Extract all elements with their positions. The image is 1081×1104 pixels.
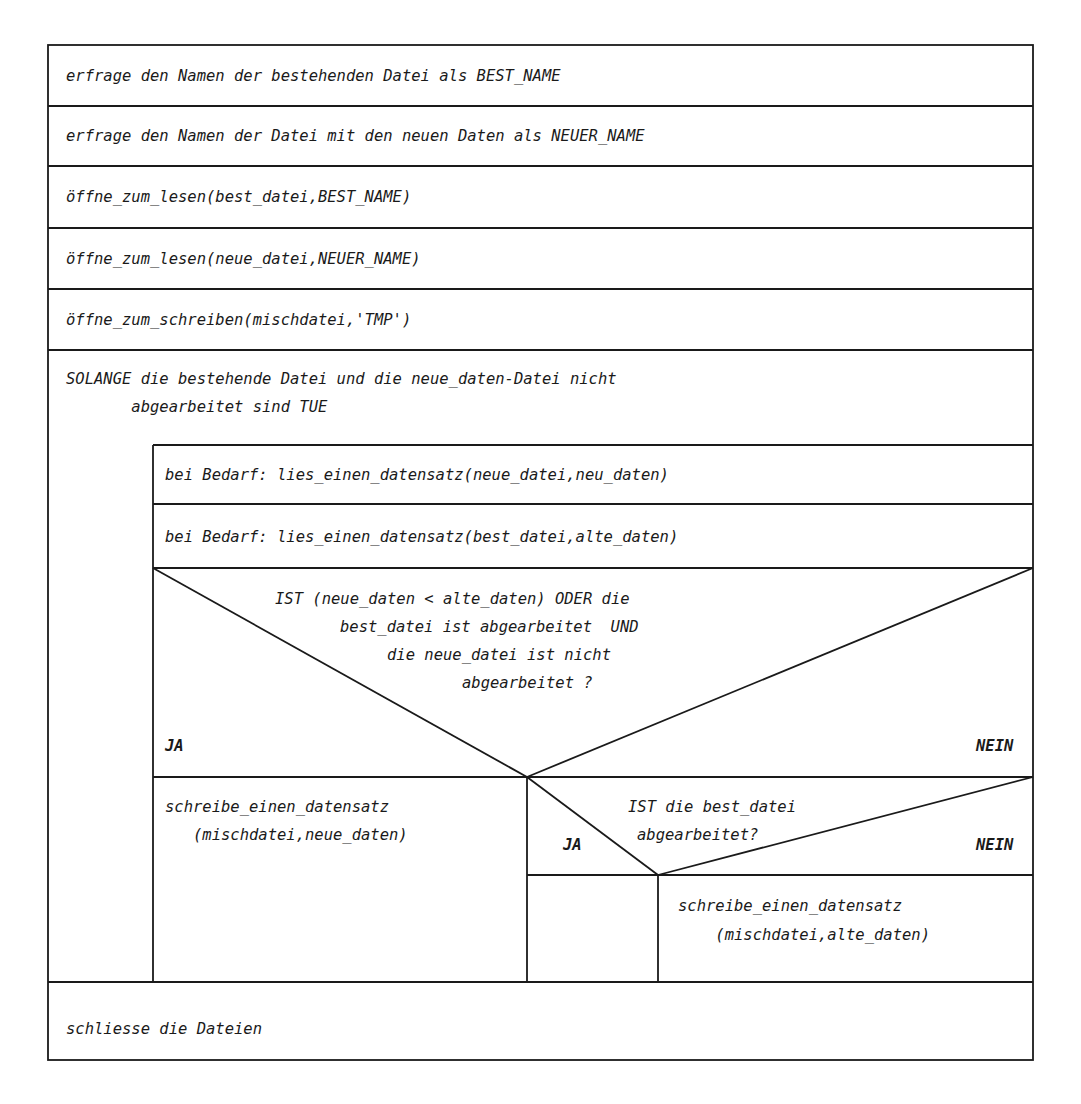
loop-condition-line2: abgearbeitet sind TUE bbox=[66, 397, 327, 417]
decision1-line4: abgearbeitet ? bbox=[462, 673, 593, 693]
write-existing-line1: schreibe_einen_datensatz bbox=[678, 896, 902, 916]
loop-read-new: bei Bedarf: lies_einen_datensatz(neue_da… bbox=[165, 465, 669, 485]
write-new-line2: (mischdatei,neue_daten) bbox=[165, 825, 408, 845]
decision2-line2: abgearbeitet? bbox=[637, 825, 758, 845]
write-existing-line2: (mischdatei,alte_daten) bbox=[678, 925, 930, 945]
decision2-line1: IST die best_datei bbox=[628, 797, 796, 817]
decision1-yes-label: JA bbox=[165, 736, 184, 756]
decision1-no-label: NEIN bbox=[976, 736, 1013, 756]
decision2-yes-label: JA bbox=[563, 835, 582, 855]
step-open-new: öffne_zum_lesen(neue_datei,NEUER_NAME) bbox=[66, 249, 421, 269]
nassi-shneiderman-diagram: erfrage den Namen der bestehenden Datei … bbox=[0, 0, 1081, 1104]
step-ask-new-name: erfrage den Namen der Datei mit den neue… bbox=[66, 126, 645, 146]
step-open-write: öffne_zum_schreiben(mischdatei,'TMP') bbox=[66, 310, 411, 330]
loop-condition-line1: SOLANGE die bestehende Datei und die neu… bbox=[66, 369, 617, 389]
step-ask-existing-name: erfrage den Namen der bestehenden Datei … bbox=[66, 66, 561, 86]
decision1-line2: best_datei ist abgearbeitet UND bbox=[340, 617, 639, 637]
decision1-line3: die neue_datei ist nicht bbox=[387, 645, 611, 665]
write-new-line1: schreibe_einen_datensatz bbox=[165, 797, 389, 817]
step-open-existing: öffne_zum_lesen(best_datei,BEST_NAME) bbox=[66, 187, 411, 207]
decision2-no-label: NEIN bbox=[976, 835, 1013, 855]
decision1-line1: IST (neue_daten < alte_daten) ODER die bbox=[275, 589, 630, 609]
step-close-files: schliesse die Dateien bbox=[66, 1019, 262, 1039]
loop-read-existing: bei Bedarf: lies_einen_datensatz(best_da… bbox=[165, 527, 678, 547]
